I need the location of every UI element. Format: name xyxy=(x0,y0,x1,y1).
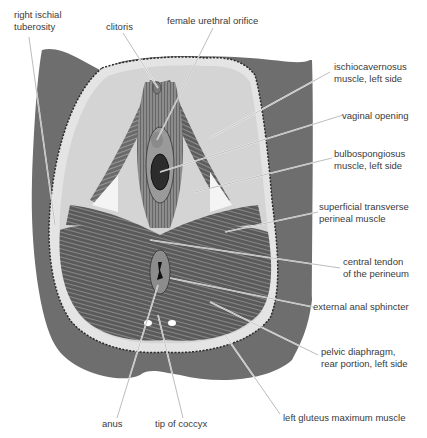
label-external-anal-sphincter: external anal sphincter xyxy=(313,301,409,313)
anatomy-figure: right ischial tuberosity clitoris female… xyxy=(0,0,427,438)
label-clitoris: clitoris xyxy=(106,21,133,33)
label-right-ischial-tuberosity: right ischial tuberosity xyxy=(14,9,62,32)
label-pelvic-diaphragm: pelvic diaphragm, rear portion, left sid… xyxy=(321,346,408,369)
label-anus: anus xyxy=(102,418,123,430)
clitoris-shape xyxy=(153,82,161,94)
label-bulbospongiosus: bulbospongiosus muscle, left side xyxy=(334,148,405,171)
label-superficial-transverse-perineal: superficial transverse perineal muscle xyxy=(319,201,409,224)
label-left-gluteus-maximus: left gluteus maximum muscle xyxy=(283,412,405,424)
label-central-tendon: central tendon of the perineum xyxy=(343,256,409,279)
label-female-urethral-orifice: female urethral orifice xyxy=(167,15,258,27)
label-vaginal-opening: vaginal opening xyxy=(342,110,409,122)
label-tip-of-coccyx: tip of coccyx xyxy=(155,418,207,430)
label-ischiocavernosus: ischiocavernosus muscle, left side xyxy=(334,61,407,84)
